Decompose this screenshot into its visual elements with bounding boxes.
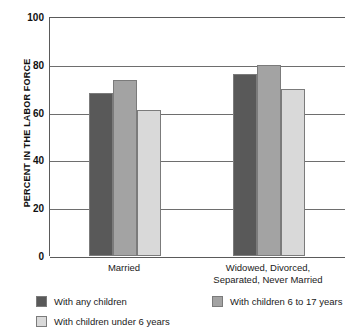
legend-swatch-icon <box>212 296 223 307</box>
y-tick-label: 40 <box>4 155 44 166</box>
x-category-label-line: Separated, Never Married <box>183 274 353 286</box>
legend-item: With children 6 to 17 years <box>212 296 342 307</box>
legend-label: With children 6 to 17 years <box>230 296 342 307</box>
bar-chart-figure: PERCENT IN THE LABOR FORCE 020406080100 … <box>0 0 362 333</box>
x-axis-baseline <box>50 257 345 258</box>
y-tick-label: 80 <box>4 59 44 70</box>
legend-item: With children under 6 years <box>36 316 170 327</box>
legend-label: With children under 6 years <box>54 316 170 327</box>
bar <box>233 74 257 256</box>
bars-layer <box>50 18 345 256</box>
legend-swatch-icon <box>36 316 47 327</box>
bar <box>89 93 113 256</box>
x-category-label-line: Widowed, Divorced, <box>183 262 353 274</box>
bar <box>257 65 281 256</box>
legend-item: With any children <box>36 296 127 307</box>
y-tick-label: 100 <box>4 12 44 23</box>
bar <box>113 80 137 256</box>
legend-swatch-icon <box>36 296 47 307</box>
bar <box>137 110 161 256</box>
y-tick-label: 0 <box>4 251 44 262</box>
x-category-label: Widowed, Divorced,Separated, Never Marri… <box>183 262 353 286</box>
bar <box>281 89 305 256</box>
legend-label: With any children <box>54 296 127 307</box>
y-tick-label: 60 <box>4 107 44 118</box>
plot-area <box>49 17 345 256</box>
y-tick-label: 20 <box>4 203 44 214</box>
